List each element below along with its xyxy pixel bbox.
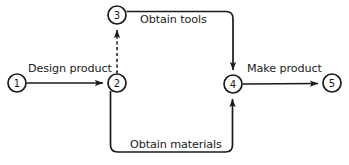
node-2[interactable]: 2 [108,74,126,92]
activity-label-make-product: Make product [247,63,322,74]
node-1-label: 1 [14,78,20,89]
node-5[interactable]: 5 [323,74,341,92]
node-1[interactable]: 1 [8,74,26,92]
activity-label-obtain-tools: Obtain tools [140,14,207,25]
node-4[interactable]: 4 [224,75,242,93]
node-3-label: 3 [114,10,120,21]
activity-network-diagram: 1 2 3 4 5 Design product Obtain tools Ob… [0,0,349,165]
node-4-label: 4 [230,79,236,90]
node-5-label: 5 [329,78,335,89]
activity-label-obtain-materials: Obtain materials [130,139,222,150]
node-2-label: 2 [114,78,120,89]
node-3[interactable]: 3 [108,6,126,24]
activity-label-design-product: Design product [28,63,112,74]
edge-make-product [243,84,319,85]
